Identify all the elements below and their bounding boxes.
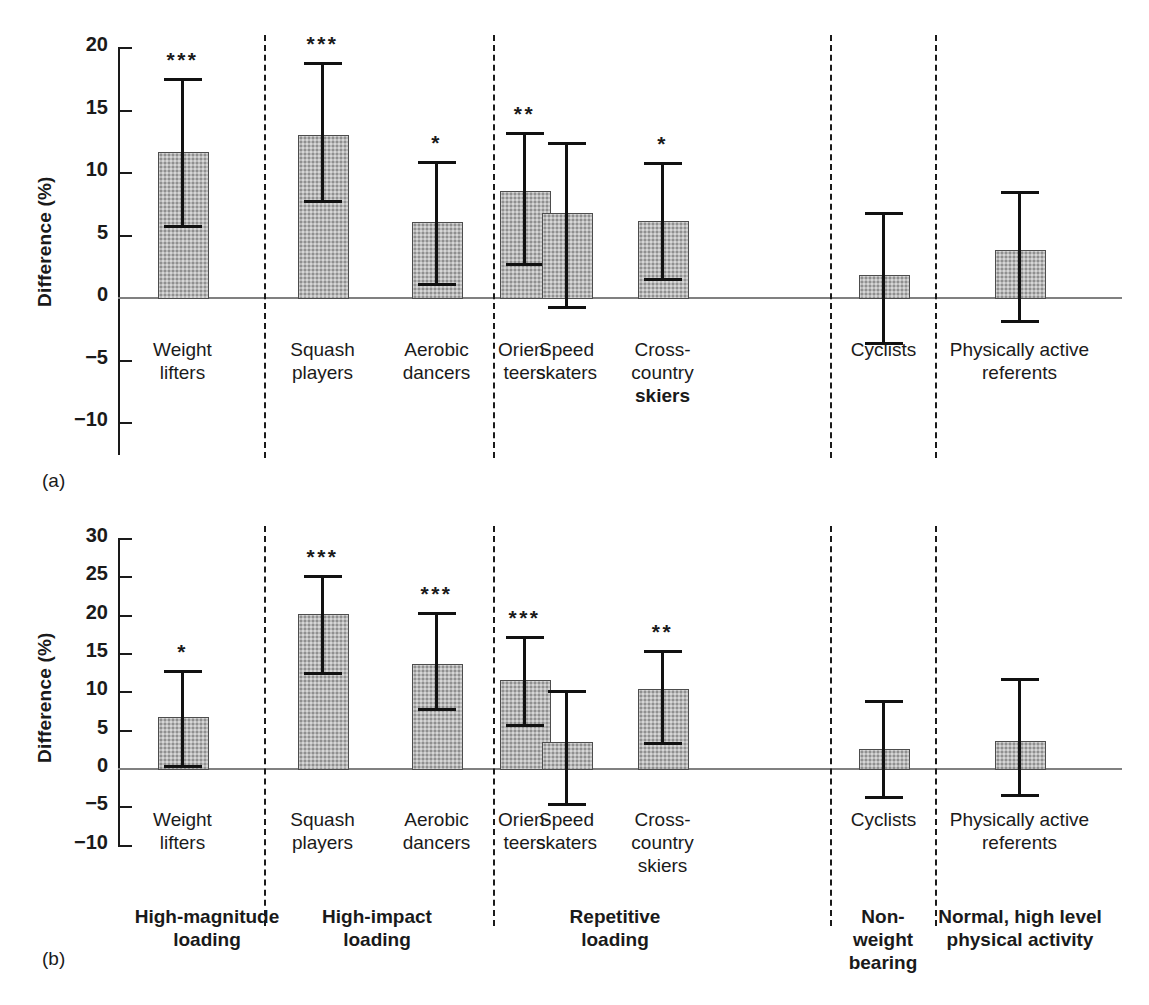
y-axis-title-(a): Difference (%): [34, 176, 56, 307]
category-label-line1: Physically active: [930, 338, 1110, 361]
error-bar-cap-upper-(b)-5: [644, 650, 682, 653]
error-bar-line-(a)-0: [181, 78, 184, 224]
error-bar-cap-upper-(b)-6: [865, 700, 903, 703]
error-bar-cap-lower-(a)-2: [418, 283, 456, 286]
error-bar-cap-upper-(b)-4: [548, 690, 586, 693]
group-divider-(b)-1: [264, 526, 266, 926]
y-tick-(b)-0: [118, 768, 1122, 770]
group-label-line2: physical activity: [880, 928, 1149, 951]
error-bar-cap-upper-(a)-0: [164, 78, 202, 81]
significance-marker-(b)-0: *: [138, 640, 228, 664]
y-tick-(a)-15: [118, 110, 132, 112]
error-bar-cap-lower-(b)-1: [304, 672, 342, 675]
bar-(b)-5: [638, 689, 689, 770]
error-bar-cap-lower-(a)-0: [164, 225, 202, 228]
y-tick-(b)-15: [118, 653, 132, 655]
error-bar-cap-lower-(a)-5: [644, 278, 682, 281]
error-bar-line-(a)-3: [523, 132, 526, 263]
group-label-line2: loading: [475, 928, 755, 951]
y-tick-(a)--10: [118, 422, 132, 424]
category-label-(a)-5: Cross-countryskiers: [573, 338, 753, 408]
y-tick-(b)-5: [118, 730, 132, 732]
significance-marker-(b)-5: **: [618, 620, 708, 644]
error-bar-cap-lower-(b)-5: [644, 742, 682, 745]
group-label-line1: Repetitive: [475, 905, 755, 928]
bar-(a)-2: [412, 222, 463, 299]
category-label-line3: skiers: [573, 854, 753, 877]
group-divider-(b)-2: [493, 526, 495, 926]
error-bar-line-(a)-5: [661, 162, 664, 278]
group-divider-(b)-4: [935, 526, 937, 926]
significance-marker-(a)-2: *: [392, 131, 482, 155]
category-label-(b)-7: Physically activereferents: [930, 808, 1110, 854]
error-bar-line-(b)-4: [565, 690, 568, 803]
y-tick-label-(a)-20: 20: [46, 33, 108, 56]
y-tick-(b)-30: [118, 538, 132, 540]
bar-(a)-5: [638, 221, 689, 299]
y-tick-label-(a)--10: −10: [46, 408, 108, 431]
category-label-(b)-5: Cross-countryskiers: [573, 808, 753, 878]
error-bar-line-(b)-3: [523, 636, 526, 723]
error-bar-cap-upper-(a)-2: [418, 161, 456, 164]
group-label-line3: bearing: [743, 951, 1023, 974]
bar-(a)-1: [298, 135, 349, 300]
bar-(b)-1: [298, 614, 349, 770]
error-bar-cap-upper-(b)-2: [418, 612, 456, 615]
bar-(a)-4: [542, 213, 593, 299]
significance-marker-(a)-1: ***: [278, 32, 368, 56]
y-axis-spine-(a): [118, 47, 120, 455]
group-label-4: Normal, high levelphysical activity: [880, 905, 1149, 951]
y-tick-(b)-25: [118, 576, 132, 578]
group-divider-(a)-4: [935, 35, 937, 458]
bar-(b)-2: [412, 664, 463, 770]
group-label-line1: Normal, high level: [880, 905, 1149, 928]
error-bar-line-(a)-1: [321, 62, 324, 200]
y-tick-label-(b)-20: 20: [46, 601, 108, 624]
figure-root: 20151050−5−10Difference (%)***Weightlift…: [0, 0, 1149, 1005]
category-label-(a)-7: Physically activereferents: [930, 338, 1110, 384]
error-bar-line-(b)-5: [661, 650, 664, 742]
y-tick-(a)-0: [118, 297, 1122, 299]
category-label-line1: Cross-: [573, 338, 753, 361]
error-bar-cap-upper-(a)-1: [304, 62, 342, 65]
category-label-line2: referents: [930, 361, 1110, 384]
group-divider-(a)-1: [264, 35, 266, 458]
error-bar-line-(b)-1: [321, 575, 324, 672]
error-bar-line-(b)-6: [882, 700, 885, 796]
y-tick-label-(a)-15: 15: [46, 96, 108, 119]
error-bar-cap-lower-(b)-4: [548, 803, 586, 806]
error-bar-cap-lower-(a)-7: [1001, 320, 1039, 323]
category-label-line3: skiers: [573, 384, 753, 407]
error-bar-cap-upper-(a)-5: [644, 162, 682, 165]
bar-(b)-6: [859, 749, 910, 770]
y-tick-(b)-20: [118, 615, 132, 617]
error-bar-line-(b)-7: [1018, 678, 1021, 794]
significance-marker-(b)-1: ***: [278, 545, 368, 569]
category-label-line1: Physically active: [930, 808, 1110, 831]
group-label-2: Repetitiveloading: [475, 905, 755, 951]
significance-marker-(b)-3: ***: [480, 606, 570, 630]
y-tick-(a)-20: [118, 47, 132, 49]
error-bar-cap-lower-(b)-6: [865, 796, 903, 799]
error-bar-cap-upper-(a)-3: [506, 132, 544, 135]
bar-(a)-7: [995, 250, 1046, 300]
error-bar-cap-lower-(a)-3: [506, 263, 544, 266]
y-tick-label-(b)-25: 25: [46, 562, 108, 585]
significance-marker-(a)-5: *: [618, 132, 708, 156]
error-bar-cap-lower-(a)-4: [548, 306, 586, 309]
error-bar-cap-upper-(b)-3: [506, 636, 544, 639]
category-label-line2: country: [573, 831, 753, 854]
error-bar-cap-upper-(b)-0: [164, 670, 202, 673]
error-bar-line-(a)-4: [565, 142, 568, 306]
category-label-line2: country: [573, 361, 753, 384]
group-divider-(b)-3: [830, 526, 832, 926]
error-bar-cap-upper-(b)-7: [1001, 678, 1039, 681]
error-bar-line-(a)-2: [435, 161, 438, 284]
bar-(a)-6: [859, 275, 910, 300]
error-bar-cap-upper-(b)-1: [304, 575, 342, 578]
error-bar-cap-upper-(a)-4: [548, 142, 586, 145]
bar-(b)-0: [158, 717, 209, 770]
error-bar-cap-lower-(b)-0: [164, 765, 202, 768]
y-tick-(a)-5: [118, 235, 132, 237]
error-bar-cap-upper-(a)-7: [1001, 191, 1039, 194]
